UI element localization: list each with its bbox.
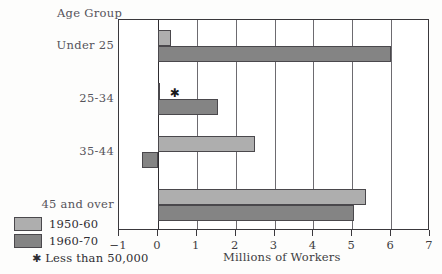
bar-45-and-over-1960-70 (158, 205, 354, 221)
tick-mark-1 (196, 230, 197, 236)
legend-footnote: ✱ Less than 50,000 (32, 251, 164, 265)
bar-35-44-1950-60 (158, 136, 255, 152)
bar-25-34-1950-60 (158, 83, 160, 99)
asterisk-icon: ✱ (32, 252, 41, 265)
x-axis-title: Millions of Workers (223, 250, 341, 264)
legend-footnote-text: Less than 50,000 (45, 251, 148, 265)
tick-mark-4 (312, 230, 313, 236)
bar-45-and-over-1950-60 (158, 189, 366, 205)
category-label: 25-34 (2, 91, 114, 105)
legend-label-1960-70: 1960-70 (49, 234, 98, 248)
tick-mark-7 (429, 230, 430, 236)
legend-item-1960-70: 1960-70 (14, 234, 164, 248)
category-label: 35-44 (2, 144, 114, 158)
legend-swatch-1950-60 (14, 217, 42, 231)
tick-label-6: 6 (386, 238, 393, 252)
tick-label-1: 1 (192, 238, 199, 252)
gridline-6 (391, 20, 392, 229)
bar-under-25-1950-60 (158, 30, 172, 46)
category-label: 45 and over (2, 197, 114, 211)
bar-35-44-1960-70 (142, 152, 158, 168)
chart-page: Age Group Under 2525-3435-4445 and over … (0, 0, 442, 274)
tick-mark-3 (274, 230, 275, 236)
category-label: Under 25 (2, 38, 114, 52)
legend-item-1950-60: 1950-60 (14, 217, 164, 231)
tick-label-7: 7 (425, 238, 432, 252)
bar-under-25-1960-70 (158, 46, 391, 62)
tick-mark-5 (351, 230, 352, 236)
asterisk-annotation-icon: ✱ (170, 87, 180, 99)
tick-mark-6 (390, 230, 391, 236)
chart-legend: 1950-60 1960-70 ✱ Less than 50,000 (14, 217, 164, 265)
bar-25-34-1960-70 (158, 99, 218, 115)
tick-label-5: 5 (348, 238, 355, 252)
tick-mark-2 (235, 230, 236, 236)
plot-area: ✱ (118, 19, 429, 230)
legend-label-1950-60: 1950-60 (49, 217, 98, 231)
legend-swatch-1960-70 (14, 234, 42, 248)
